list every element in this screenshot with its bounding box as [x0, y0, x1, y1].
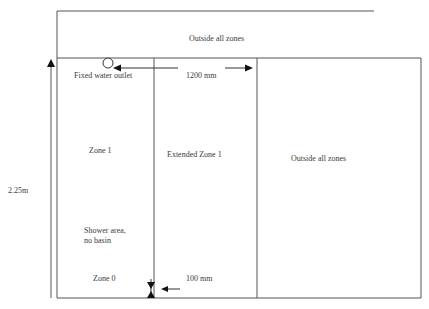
label-outside-right: Outside all zones [291, 154, 346, 164]
label-outside-top: Outside all zones [189, 34, 244, 44]
gap-arrow-icon [161, 286, 180, 292]
height-arrow-icon [47, 59, 55, 298]
label-shower-area-2: no basin [84, 236, 111, 246]
label-extended-zone1: Extended Zone 1 [167, 150, 222, 160]
label-zone1: Zone 1 [89, 146, 111, 156]
label-fixed-water-outlet: Fixed water outlet [74, 71, 132, 81]
water-outlet-icon [103, 58, 113, 68]
label-1200mm: 1200 mm [186, 71, 216, 81]
label-shower-area-1: Shower area, [84, 226, 126, 236]
label-zone0: Zone 0 [93, 274, 115, 284]
label-100mm: 100 mm [186, 274, 212, 284]
label-height: 2.25m [8, 186, 28, 196]
width-arrow-right-icon [225, 65, 253, 72]
